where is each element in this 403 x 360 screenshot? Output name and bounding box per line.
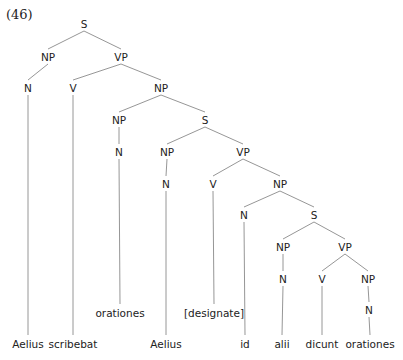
tree-edge	[166, 159, 167, 176]
terminal-word: Aelius	[150, 338, 181, 350]
tree-edge	[167, 127, 205, 144]
terminal-edge	[213, 191, 214, 304]
node-np: NP	[112, 114, 126, 126]
tree-nodes: SNPVPNVNPNPSNNPVPNVNPNSNPVPNVNPN	[24, 18, 375, 316]
node-v: V	[209, 178, 217, 190]
tree-edge	[280, 191, 314, 207]
tree-edge	[28, 64, 48, 80]
node-np: NP	[273, 178, 287, 190]
tree-edge	[48, 31, 84, 49]
node-n: N	[24, 82, 32, 94]
terminal-edge	[119, 159, 120, 304]
terminal-edge	[244, 222, 245, 335]
terminal-word: orationes	[345, 338, 394, 350]
node-n: N	[365, 304, 373, 316]
terminal-word: orationes	[95, 307, 144, 319]
tree-edge	[121, 64, 161, 80]
tree-edge	[322, 254, 345, 271]
tree-edge	[73, 64, 121, 80]
node-vp: VP	[338, 241, 352, 253]
terminal-word: Aelius	[12, 338, 43, 350]
node-vp: VP	[114, 51, 128, 63]
node-s: S	[311, 209, 318, 221]
tree-edge	[345, 254, 368, 271]
tree-edge	[244, 191, 280, 207]
node-np: NP	[276, 241, 290, 253]
tree-edge	[243, 159, 280, 176]
terminal-words: AeliusscribebatorationesAelius[designate…	[12, 307, 394, 350]
node-n: N	[240, 209, 248, 221]
node-s: S	[81, 18, 88, 30]
tree-edge	[119, 95, 161, 112]
node-vp: VP	[236, 146, 250, 158]
tree-edge	[283, 222, 314, 239]
terminal-word: dicunt	[306, 338, 339, 350]
node-n: N	[279, 273, 287, 285]
terminal-edge	[369, 317, 370, 335]
terminal-word: scribebat	[49, 338, 98, 350]
example-number: (46)	[6, 7, 33, 22]
terminal-word: [designate]	[184, 307, 244, 319]
tree-edge	[84, 31, 121, 49]
tree-edge	[314, 222, 345, 239]
terminal-edge	[282, 286, 283, 335]
node-np: NP	[41, 51, 55, 63]
node-s: S	[202, 114, 209, 126]
tree-edge	[205, 127, 243, 144]
tree-edges	[28, 31, 370, 335]
node-n: N	[115, 146, 123, 158]
node-np: NP	[154, 82, 168, 94]
tree-edge	[213, 159, 243, 176]
node-n: N	[162, 178, 170, 190]
node-np: NP	[160, 146, 174, 158]
node-v: V	[69, 82, 77, 94]
node-np: NP	[361, 273, 375, 285]
terminal-word: id	[240, 338, 250, 350]
syntax-tree-diagram: (46) SNPVPNVNPNPSNNPVPNVNPNSNPVPNVNPN Ae…	[0, 0, 403, 360]
tree-edge	[368, 286, 369, 302]
tree-edge	[161, 95, 205, 112]
node-v: V	[318, 273, 326, 285]
terminal-word: alii	[274, 338, 289, 350]
